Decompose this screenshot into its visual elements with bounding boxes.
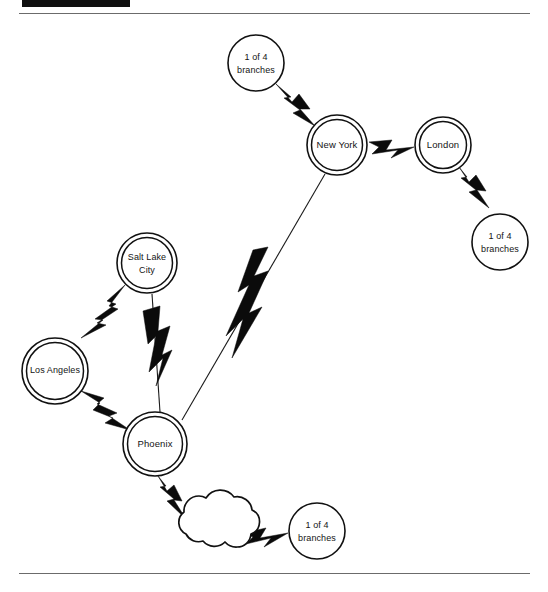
link-phoenix-cloud xyxy=(158,476,186,519)
node-branches-east-label-line1: 1 of 4 xyxy=(488,231,511,241)
node-salt-lake-city-label-line1: Salt Lake xyxy=(128,252,166,262)
node-phoenix-label: Phoenix xyxy=(137,438,172,449)
node-los-angeles[interactable]: Los Angeles xyxy=(22,338,88,404)
node-london[interactable]: London xyxy=(415,117,471,173)
node-london-label: London xyxy=(427,139,459,150)
header-black-bar xyxy=(22,0,130,7)
node-branches-south-label-line2: branches xyxy=(298,533,336,543)
link-london-branches-east xyxy=(459,167,489,208)
node-branches-east-label-line2: branches xyxy=(481,244,519,254)
link-new-york-london xyxy=(369,140,414,158)
network-diagram-canvas: 1 of 4 branches New York London 1 of 4 b… xyxy=(0,14,548,572)
node-new-york-label: New York xyxy=(317,139,358,150)
node-phoenix[interactable]: Phoenix xyxy=(123,412,187,476)
node-branches-east[interactable]: 1 of 4 branches xyxy=(472,214,528,270)
network-diagram-svg: 1 of 4 branches New York London 1 of 4 b… xyxy=(0,14,548,572)
link-salt-lake-city-phoenix xyxy=(143,294,172,412)
node-cloud[interactable] xyxy=(179,490,260,547)
link-los-angeles-phoenix xyxy=(81,391,130,430)
node-new-york[interactable]: New York xyxy=(307,115,367,175)
page-root: 1 of 4 branches New York London 1 of 4 b… xyxy=(0,0,548,592)
node-branches-south[interactable]: 1 of 4 branches xyxy=(289,503,345,559)
link-new-york-phoenix xyxy=(182,174,325,420)
node-branches-north[interactable]: 1 of 4 branches xyxy=(228,35,284,91)
link-branches-north-new-york xyxy=(276,84,315,126)
node-los-angeles-label: Los Angeles xyxy=(30,365,81,375)
page-header xyxy=(0,0,548,13)
link-salt-lake-city-los-angeles xyxy=(81,285,125,338)
footer-divider-bottom xyxy=(19,573,530,574)
node-salt-lake-city-label-line2: City xyxy=(139,265,155,275)
node-branches-south-label-line1: 1 of 4 xyxy=(305,520,328,530)
node-branches-north-label-line2: branches xyxy=(237,65,275,75)
node-branches-north-label-line1: 1 of 4 xyxy=(244,52,267,62)
node-salt-lake-city[interactable]: Salt Lake City xyxy=(117,233,177,293)
